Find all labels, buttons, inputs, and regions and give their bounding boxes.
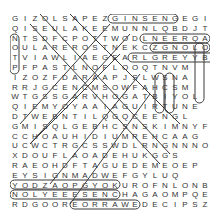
letter-cell[interactable]: O [30, 73, 40, 83]
letter-cell[interactable]: S [140, 122, 150, 132]
letter-cell[interactable]: A [40, 43, 50, 53]
letter-cell[interactable]: G [30, 200, 40, 210]
letter-cell[interactable]: E [30, 161, 40, 171]
letter-cell[interactable] [200, 171, 210, 181]
letter-cell[interactable]: D [60, 73, 70, 83]
letter-cell[interactable]: H [100, 92, 110, 102]
letter-cell[interactable]: G [120, 92, 130, 102]
letter-cell[interactable]: O [10, 43, 20, 53]
letter-cell[interactable]: G [190, 132, 200, 142]
letter-cell[interactable]: G [130, 171, 140, 181]
letter-cell[interactable]: L [130, 141, 140, 151]
letter-cell[interactable]: P [110, 73, 120, 83]
letter-cell[interactable]: T [140, 92, 150, 102]
letter-cell[interactable]: G [170, 14, 180, 24]
letter-cell[interactable]: Q [140, 63, 150, 73]
letter-cell[interactable]: A [80, 171, 90, 181]
letter-cell[interactable]: L [60, 151, 70, 161]
letter-cell[interactable]: I [40, 171, 50, 181]
letter-cell[interactable]: A [110, 102, 120, 112]
letter-cell[interactable]: M [150, 161, 160, 171]
letter-cell[interactable]: I [20, 24, 30, 34]
letter-cell[interactable]: R [10, 83, 20, 93]
letter-cell[interactable]: U [110, 132, 120, 142]
letter-cell[interactable]: G [40, 83, 50, 93]
letter-cell[interactable]: A [80, 102, 90, 112]
letter-cell[interactable]: C [160, 132, 170, 142]
letter-cell[interactable]: O [40, 132, 50, 142]
letter-cell[interactable] [190, 83, 200, 93]
letter-cell[interactable]: B [90, 122, 100, 132]
letter-cell[interactable]: N [130, 14, 140, 24]
letter-cell[interactable]: E [160, 34, 170, 44]
letter-cell[interactable]: G [140, 190, 150, 200]
letter-cell[interactable]: C [20, 132, 30, 142]
letter-cell[interactable]: Y [170, 92, 180, 102]
letter-cell[interactable]: Y [190, 53, 200, 63]
letter-cell[interactable]: U [160, 171, 170, 181]
letter-cell[interactable]: K [150, 122, 160, 132]
letter-cell[interactable]: E [90, 53, 100, 63]
letter-cell[interactable]: M [90, 83, 100, 93]
letter-cell[interactable]: C [160, 83, 170, 93]
letter-cell[interactable]: R [90, 200, 100, 210]
letter-cell[interactable]: L [110, 63, 120, 73]
letter-cell[interactable] [200, 92, 210, 102]
letter-cell[interactable]: T [80, 161, 90, 171]
letter-cell[interactable]: N [60, 171, 70, 181]
letter-cell[interactable]: A [70, 24, 80, 34]
letter-cell[interactable]: O [180, 181, 190, 191]
letter-cell[interactable]: B [200, 53, 210, 63]
letter-cell[interactable]: I [80, 132, 90, 142]
letter-cell[interactable]: P [180, 200, 190, 210]
letter-cell[interactable]: T [50, 141, 60, 151]
letter-cell[interactable]: M [40, 102, 50, 112]
letter-cell[interactable]: I [30, 53, 40, 63]
letter-cell[interactable]: S [50, 92, 60, 102]
letter-cell[interactable]: H [70, 132, 80, 142]
letter-cell[interactable]: F [100, 63, 110, 73]
letter-cell[interactable]: M [180, 83, 190, 93]
letter-cell[interactable]: R [130, 53, 140, 63]
letter-cell[interactable]: O [40, 200, 50, 210]
letter-cell[interactable]: N [130, 24, 140, 34]
letter-cell[interactable]: E [140, 132, 150, 142]
letter-cell[interactable]: S [160, 73, 170, 83]
letter-cell[interactable]: O [60, 102, 70, 112]
letter-cell[interactable]: N [160, 14, 170, 24]
letter-cell[interactable]: R [180, 34, 190, 44]
letter-cell[interactable]: S [30, 34, 40, 44]
letter-cell[interactable]: E [180, 161, 190, 171]
letter-cell[interactable]: U [20, 43, 30, 53]
letter-cell[interactable]: L [60, 53, 70, 63]
letter-cell[interactable]: R [140, 141, 150, 151]
letter-cell[interactable]: L [90, 112, 100, 122]
letter-cell[interactable]: G [30, 92, 40, 102]
letter-cell[interactable]: A [170, 132, 180, 142]
letter-cell[interactable]: E [90, 190, 100, 200]
letter-cell[interactable]: C [160, 200, 170, 210]
letter-cell[interactable]: E [90, 14, 100, 24]
letter-cell[interactable]: E [150, 14, 160, 24]
letter-cell[interactable]: E [140, 161, 150, 171]
letter-cell[interactable]: J [30, 83, 40, 93]
letter-cell[interactable]: S [120, 122, 130, 132]
letter-cell[interactable]: L [60, 122, 70, 132]
letter-cell[interactable]: I [170, 200, 180, 210]
letter-cell[interactable]: L [190, 92, 200, 102]
letter-cell[interactable]: I [100, 102, 110, 112]
letter-cell[interactable]: Q [50, 122, 60, 132]
letter-cell[interactable]: G [100, 161, 110, 171]
letter-cell[interactable]: Y [140, 171, 150, 181]
letter-cell[interactable] [200, 73, 210, 83]
letter-cell[interactable]: U [10, 141, 20, 151]
letter-cell[interactable]: N [10, 34, 20, 44]
letter-cell[interactable]: N [150, 141, 160, 151]
letter-cell[interactable]: C [10, 132, 20, 142]
letter-cell[interactable]: U [120, 181, 130, 191]
letter-cell[interactable]: Z [30, 14, 40, 24]
letter-cell[interactable]: M [20, 122, 30, 132]
letter-cell[interactable]: A [90, 151, 100, 161]
letter-cell[interactable]: P [70, 181, 80, 191]
letter-cell[interactable]: L [150, 171, 160, 181]
